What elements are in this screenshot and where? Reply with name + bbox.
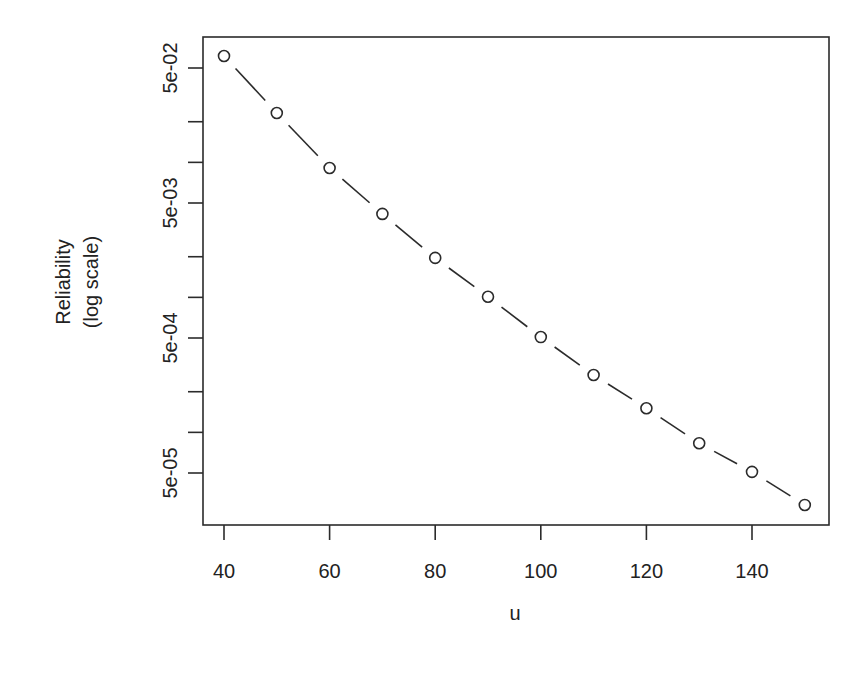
data-point-marker [747, 466, 758, 477]
x-tick-label: 40 [213, 560, 235, 582]
data-point-marker [430, 252, 441, 263]
y-axis-subtitle: (log scale) [80, 236, 102, 328]
data-point-marker [588, 370, 599, 381]
data-point-marker [641, 403, 652, 414]
data-point-marker [799, 499, 810, 510]
y-tick-label: 5e-02 [159, 42, 181, 93]
data-point-marker [219, 50, 230, 61]
chart: 5e-025e-035e-045e-05 406080100120140 u R… [0, 0, 868, 680]
y-tick-label: 5e-05 [159, 447, 181, 498]
x-tick-label: 140 [735, 560, 768, 582]
y-tick-label: 5e-03 [159, 177, 181, 228]
x-tick-label: 100 [524, 560, 557, 582]
data-point-marker [271, 108, 282, 119]
x-axis-title: u [509, 602, 520, 624]
y-axis-title: Reliability [52, 239, 74, 325]
data-point-marker [324, 163, 335, 174]
x-tick-label: 80 [424, 560, 446, 582]
data-point-marker [694, 438, 705, 449]
x-tick-label: 120 [630, 560, 663, 582]
y-tick-label: 5e-04 [159, 312, 181, 363]
x-tick-label: 60 [318, 560, 340, 582]
data-point-marker [535, 332, 546, 343]
data-point-marker [483, 291, 494, 302]
data-point-marker [377, 208, 388, 219]
